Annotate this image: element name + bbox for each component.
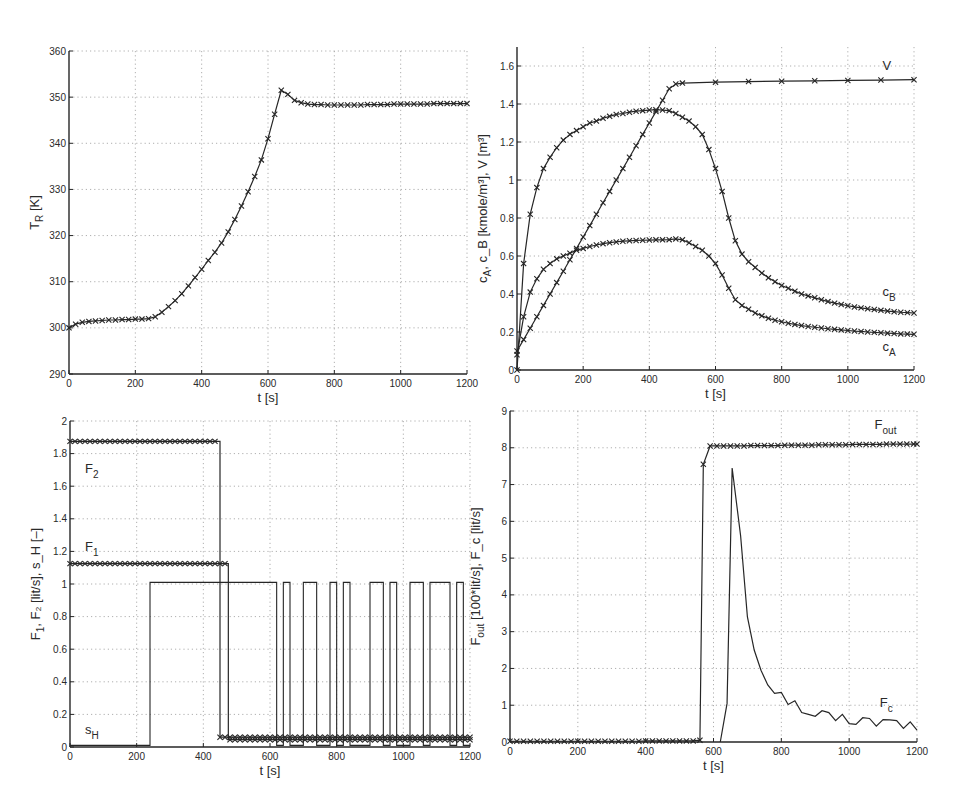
axes: 0200400600800100012000123456789 bbox=[501, 406, 928, 758]
y-tick-label: 8 bbox=[501, 442, 507, 453]
figure: 0200400600800100012002903003103203303403… bbox=[0, 0, 965, 807]
y-axis-label: Fout [100*lit/s], F_c [lit/s] bbox=[468, 507, 486, 645]
x-tick-label: 600 bbox=[705, 746, 722, 757]
y-tick-label: 0 bbox=[501, 737, 507, 748]
y-tick-label: 6 bbox=[501, 516, 507, 527]
outflow-coolant-plot: 0200400600800100012000123456789t [s]Fout… bbox=[0, 0, 965, 807]
grid bbox=[510, 411, 917, 742]
x-tick-label: 400 bbox=[637, 746, 654, 757]
x-tick-label: 0 bbox=[507, 746, 513, 757]
x-tick-label: 1000 bbox=[838, 746, 861, 757]
x-tick-label: 800 bbox=[773, 746, 790, 757]
series-annotation: Fc bbox=[880, 695, 893, 714]
y-tick-label: 5 bbox=[501, 553, 507, 564]
y-tick-label: 2 bbox=[501, 663, 507, 674]
series-annotation: Fout bbox=[875, 417, 897, 436]
x-tick-label: 1200 bbox=[906, 746, 929, 757]
y-tick-label: 7 bbox=[501, 479, 507, 490]
x-axis-label: t [s] bbox=[703, 758, 724, 773]
y-tick-label: 1 bbox=[501, 700, 507, 711]
y-tick-label: 3 bbox=[501, 626, 507, 637]
y-tick-label: 4 bbox=[501, 589, 507, 600]
y-tick-label: 9 bbox=[501, 406, 507, 417]
x-tick-label: 200 bbox=[569, 746, 586, 757]
